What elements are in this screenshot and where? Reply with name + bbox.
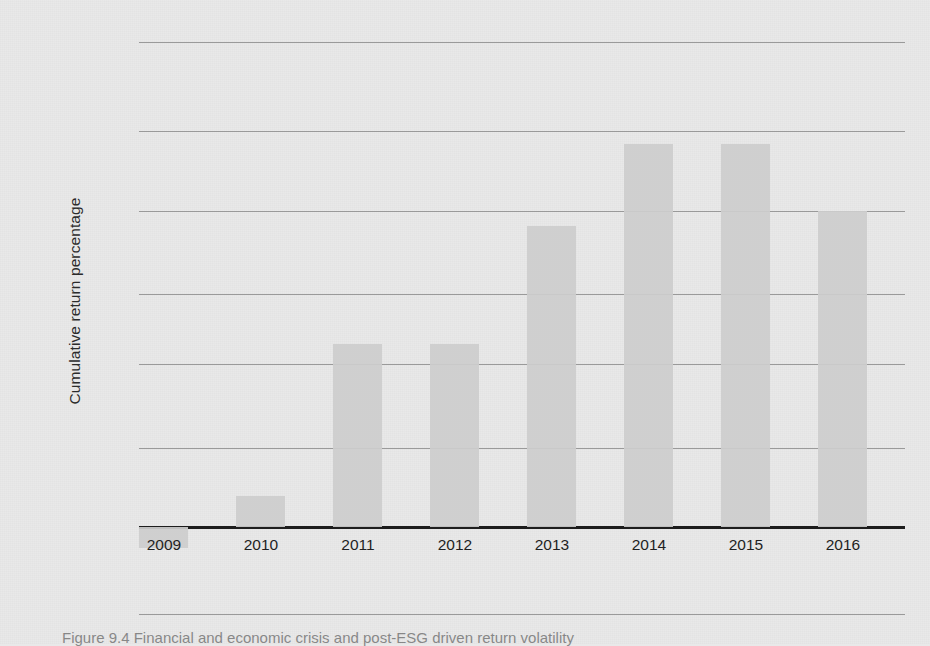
plot-area: 12.0% 10.0% 8.0% 6.0% 4.0% 2.0% 0.0% −2.… (139, 0, 905, 644)
bar-2010[interactable] (236, 496, 285, 527)
gridline-10 (139, 131, 905, 132)
gridline-6 (139, 294, 905, 295)
x-tick-label-2014: 2014 (601, 536, 697, 554)
x-tick-label-2015: 2015 (698, 536, 794, 554)
x-tick-label-2013: 2013 (504, 536, 600, 554)
bar-2012[interactable] (430, 344, 479, 527)
bar-2014[interactable] (624, 144, 673, 527)
x-tick-label-2012: 2012 (407, 536, 503, 554)
gridline-8 (139, 211, 905, 212)
bar-2015[interactable] (721, 144, 770, 527)
bar-2011[interactable] (333, 344, 382, 527)
gridline-4 (139, 364, 905, 365)
bar-2016[interactable] (818, 211, 867, 527)
x-tick-label-2010: 2010 (213, 536, 309, 554)
x-tick-label-2016: 2016 (795, 536, 891, 554)
figure-caption: Figure 9.4 Financial and economic crisis… (62, 629, 892, 646)
gridline-12 (139, 42, 905, 43)
bar-2013[interactable] (527, 226, 576, 527)
x-tick-label-2009: 2009 (116, 536, 212, 554)
gridline-2 (139, 448, 905, 449)
gridline-minus2 (139, 614, 905, 615)
y-axis-title: Cumulative return percentage (66, 141, 84, 461)
x-tick-label-2011: 2011 (310, 536, 406, 554)
